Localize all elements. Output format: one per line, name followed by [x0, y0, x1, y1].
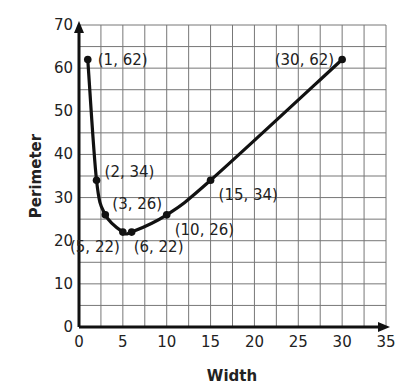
x-tick-label: 20	[245, 333, 264, 351]
x-tick-label: 10	[157, 333, 176, 351]
data-point	[119, 228, 127, 236]
x-tick-label: 25	[289, 333, 308, 351]
y-tick-label: 70	[54, 16, 73, 34]
x-tick-label: 5	[118, 333, 128, 351]
x-tick-label: 0	[74, 333, 84, 351]
point-labels: (1, 62)(2, 34)(3, 26)(5, 22)(6, 22)(10, …	[70, 51, 334, 257]
x-axis-arrow-icon	[378, 322, 390, 332]
data-point	[93, 177, 101, 185]
point-label: (1, 62)	[98, 51, 148, 69]
point-label: (6, 22)	[134, 238, 184, 256]
point-label: (3, 26)	[112, 195, 162, 213]
point-label: (5, 22)	[70, 238, 120, 256]
point-label: (2, 34)	[105, 163, 155, 181]
x-tick-label: 30	[333, 333, 352, 351]
data-point	[207, 177, 215, 185]
y-tick-label: 60	[54, 59, 73, 77]
point-label: (15, 34)	[219, 186, 278, 204]
data-point	[128, 228, 136, 236]
y-tick-label: 10	[54, 275, 73, 293]
y-tick-label: 40	[54, 145, 73, 163]
point-label: (30, 62)	[275, 51, 334, 69]
y-axis-arrow-icon	[74, 21, 84, 33]
y-tick-label: 50	[54, 102, 73, 120]
y-tick-label: 30	[54, 189, 73, 207]
x-axis-label: Width	[207, 367, 257, 385]
x-tick-label: 35	[376, 333, 395, 351]
perimeter-width-chart: 05101520253035010203040506070 (1, 62)(2,…	[0, 0, 412, 392]
data-point	[102, 211, 110, 219]
y-tick-label: 0	[63, 318, 73, 336]
y-axis-label: Perimeter	[27, 133, 45, 218]
data-point	[84, 56, 92, 64]
data-point	[338, 56, 346, 64]
point-label: (10, 26)	[175, 221, 234, 239]
x-tick-label: 15	[201, 333, 220, 351]
data-point	[163, 211, 171, 219]
